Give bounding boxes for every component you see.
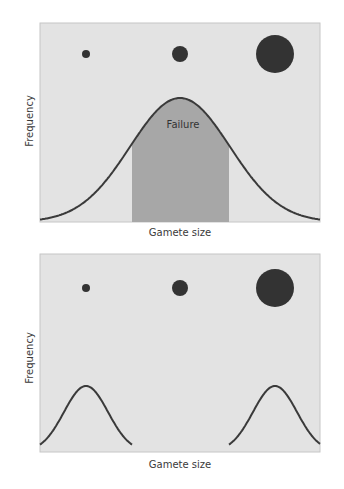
diagram-canvas xyxy=(0,0,344,489)
bottom-y-axis-label: Frequency xyxy=(24,332,35,384)
failure-label: Failure xyxy=(167,119,200,130)
medium-gamete-icon xyxy=(172,280,188,296)
medium-gamete-icon xyxy=(172,46,188,62)
large-gamete-icon xyxy=(256,269,294,307)
bottom-x-axis-label: Gamete size xyxy=(149,459,211,470)
top-y-axis-label: Frequency xyxy=(24,95,35,147)
large-gamete-icon xyxy=(256,35,294,73)
bottom-panel xyxy=(40,254,320,452)
small-gamete-icon xyxy=(82,50,90,58)
top-x-axis-label: Gamete size xyxy=(149,227,211,238)
small-gamete-icon xyxy=(82,284,90,292)
